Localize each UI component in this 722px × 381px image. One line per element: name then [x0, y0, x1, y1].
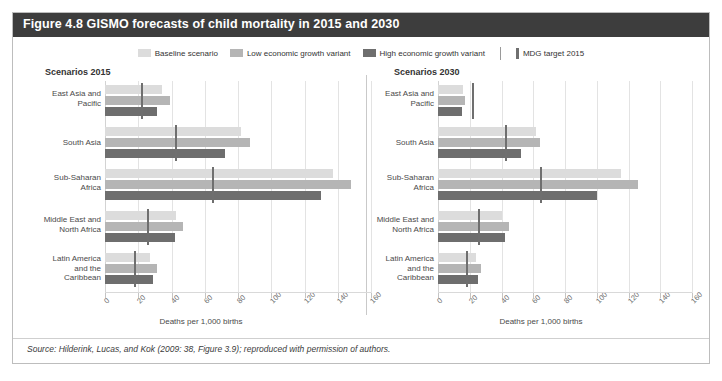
bar-4-2 — [105, 275, 153, 284]
x-tick-label-60: 60 — [202, 293, 214, 305]
bar-group-0: East Asia and Pacific — [105, 85, 371, 116]
bar-0-2 — [105, 107, 157, 116]
mdg-target-marker-3 — [147, 209, 149, 245]
category-label-2: Sub-Saharan Africa — [358, 173, 434, 192]
bar-group-4: Latin America and the Caribbean — [105, 253, 371, 284]
panel-scenarios-2015: Scenarios 2015 020406080100120140160East… — [27, 65, 375, 335]
legend-item-0: Baseline scenario — [138, 49, 218, 58]
figure-source: Source: Hilderink, Lucas, and Kok (2009:… — [27, 344, 390, 354]
bar-3-2 — [105, 233, 175, 242]
bar-3-1 — [438, 222, 509, 231]
x-tick-label-60: 60 — [530, 293, 542, 305]
legend-swatch-icon — [138, 49, 151, 57]
legend-item-2: High economic growth variant — [363, 49, 485, 58]
bar-1-2 — [105, 149, 225, 158]
bar-2-1 — [438, 180, 638, 189]
bar-0-2 — [438, 107, 462, 116]
gridline-160 — [692, 81, 693, 293]
mdg-target-marker-3 — [478, 209, 480, 245]
panel-heading-2030: Scenarios 2030 — [394, 67, 460, 77]
bar-1-0 — [105, 127, 241, 136]
bar-4-0 — [105, 253, 150, 262]
x-tick-label-0: 0 — [435, 296, 444, 305]
legend-label: High economic growth variant — [380, 49, 485, 58]
x-tick-label-80: 80 — [562, 293, 574, 305]
mdg-target-marker-2 — [212, 167, 214, 203]
bar-3-0 — [105, 211, 176, 220]
figure-card: Figure 4.8 GISMO forecasts of child mort… — [12, 12, 710, 364]
figure-title-bar: Figure 4.8 GISMO forecasts of child mort… — [13, 13, 709, 37]
bar-0-1 — [105, 96, 170, 105]
x-tick-label-40: 40 — [169, 293, 181, 305]
plot-area-2030: 020406080100120140160East Asia and Pacif… — [438, 81, 692, 293]
bar-4-0 — [438, 253, 476, 262]
bar-1-1 — [438, 138, 540, 147]
legend-swatch-icon — [363, 49, 376, 57]
category-label-3: Middle East and North Africa — [17, 215, 101, 234]
mdg-target-marker-0 — [472, 83, 474, 119]
source-divider — [13, 338, 709, 339]
panel-heading-2015: Scenarios 2015 — [45, 67, 111, 77]
bar-group-4: Latin America and the Caribbean — [438, 253, 692, 284]
legend-separator — [500, 47, 501, 60]
legend-rule-icon — [516, 48, 519, 59]
legend-label: Low economic growth variant — [247, 49, 351, 58]
legend-item-1: Low economic growth variant — [230, 49, 351, 58]
bar-2-2 — [438, 191, 597, 200]
chart-legend: Baseline scenarioLow economic growth var… — [13, 43, 709, 63]
mdg-target-marker-1 — [175, 125, 177, 161]
mdg-target-marker-2 — [540, 167, 542, 203]
bar-0-1 — [438, 96, 465, 105]
category-label-0: East Asia and Pacific — [358, 89, 434, 108]
bar-2-0 — [105, 169, 333, 178]
bar-4-1 — [105, 264, 157, 273]
category-label-2: Sub-Saharan Africa — [17, 173, 101, 192]
bar-4-1 — [438, 264, 481, 273]
panel-scenarios-2030: Scenarios 2030 020406080100120140160East… — [376, 65, 706, 335]
bar-0-0 — [105, 85, 162, 94]
category-label-4: Latin America and the Caribbean — [358, 254, 434, 283]
x-axis-line — [438, 292, 692, 293]
bar-3-0 — [438, 211, 502, 220]
bar-0-0 — [438, 85, 463, 94]
bar-4-2 — [438, 275, 478, 284]
legend-label: Baseline scenario — [155, 49, 218, 58]
chart-panels: Scenarios 2015 020406080100120140160East… — [13, 65, 709, 335]
bar-3-2 — [438, 233, 505, 242]
x-tick-label-0: 0 — [102, 296, 111, 305]
x-tick-label-80: 80 — [235, 293, 247, 305]
x-tick-label-40: 40 — [499, 293, 511, 305]
bar-group-0: East Asia and Pacific — [438, 85, 692, 116]
x-axis-title-2015: Deaths per 1,000 births — [27, 317, 375, 326]
x-axis-title-2030: Deaths per 1,000 births — [376, 317, 706, 326]
category-label-3: Middle East and North Africa — [358, 215, 434, 234]
mdg-target-marker-4 — [466, 251, 468, 287]
legend-label: MDG target 2015 — [523, 49, 584, 58]
legend-item-3: MDG target 2015 — [516, 48, 584, 59]
bar-group-2: Sub-Saharan Africa — [438, 169, 692, 200]
bar-group-1: South Asia — [438, 127, 692, 158]
x-tick-label-20: 20 — [135, 293, 147, 305]
bar-group-3: Middle East and North Africa — [105, 211, 371, 242]
category-label-0: East Asia and Pacific — [17, 89, 101, 108]
bar-group-3: Middle East and North Africa — [438, 211, 692, 242]
bar-group-1: South Asia — [105, 127, 371, 158]
x-axis-line — [105, 292, 371, 293]
bar-2-1 — [105, 180, 351, 189]
category-label-1: South Asia — [17, 138, 101, 148]
figure-title: Figure 4.8 GISMO forecasts of child mort… — [23, 17, 399, 31]
bar-group-2: Sub-Saharan Africa — [105, 169, 371, 200]
plot-area-2015: 020406080100120140160East Asia and Pacif… — [105, 81, 371, 293]
bar-1-2 — [438, 149, 521, 158]
bar-2-0 — [438, 169, 621, 178]
legend-swatch-icon — [230, 49, 243, 57]
x-tick-label-20: 20 — [467, 293, 479, 305]
bar-1-0 — [438, 127, 536, 136]
mdg-target-marker-1 — [505, 125, 507, 161]
bar-3-1 — [105, 222, 183, 231]
category-label-4: Latin America and the Caribbean — [17, 254, 101, 283]
mdg-target-marker-4 — [134, 251, 136, 287]
mdg-target-marker-0 — [141, 83, 143, 119]
category-label-1: South Asia — [358, 138, 434, 148]
